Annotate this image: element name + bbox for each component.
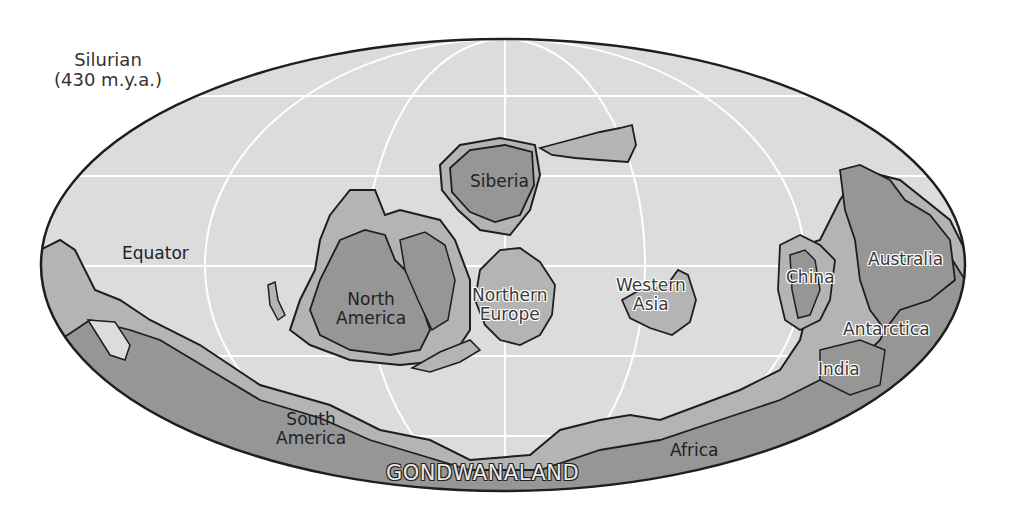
antarctica-label: Antarctica xyxy=(843,320,930,339)
equator-label: Equator xyxy=(122,244,189,263)
india-label: India xyxy=(818,360,860,379)
period-age: (430 m.y.a.) xyxy=(54,70,162,90)
north-america-label-line1: North xyxy=(336,290,406,309)
africa-label: Africa xyxy=(670,441,719,460)
northern-europe-label-line1: Northern xyxy=(472,286,547,305)
china-label: China xyxy=(786,268,835,287)
south-america-label-line1: South xyxy=(276,410,346,429)
siberia-label: Siberia xyxy=(470,172,529,191)
northern-europe-label: Northern Europe xyxy=(472,286,547,323)
australia-label: Australia xyxy=(868,250,943,269)
south-america-label-line2: America xyxy=(276,429,346,448)
period-name: Silurian xyxy=(54,50,162,70)
western-asia-label-line1: Western xyxy=(616,276,686,295)
western-asia-label-line2: Asia xyxy=(616,295,686,314)
gondwanaland-label: GONDWANALAND xyxy=(386,462,579,485)
south-america-label: South America xyxy=(276,410,346,447)
western-asia-label: Western Asia xyxy=(616,276,686,313)
period-label: Silurian (430 m.y.a.) xyxy=(54,50,162,90)
north-america-label-line2: America xyxy=(336,309,406,328)
northern-europe-label-line2: Europe xyxy=(472,305,547,324)
north-america-label: North America xyxy=(336,290,406,327)
